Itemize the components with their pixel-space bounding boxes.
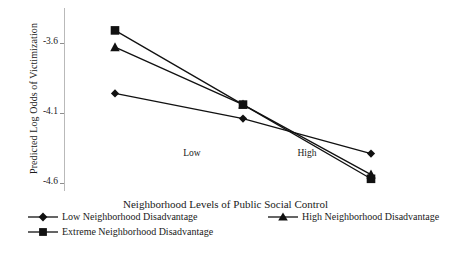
square-data-point: [367, 175, 376, 184]
diamond-data-point: [367, 150, 375, 158]
series-diamond: [111, 89, 375, 157]
y-tick-label-1: -4.1: [43, 107, 58, 117]
square-data-point: [239, 100, 248, 109]
triangle-marker-icon: [268, 211, 298, 223]
legend-label-extreme-disadvantage: Extreme Neighborhood Disadvantage: [62, 227, 213, 237]
series-layer: [64, 8, 392, 191]
x-axis-title: Neighborhood Levels of Public Social Con…: [0, 198, 451, 210]
legend-row-1: Low Neighborhood Disadvantage High Neigh…: [28, 211, 443, 226]
legend-row-2: Extreme Neighborhood Disadvantage: [28, 226, 443, 241]
x-tick-label-low: Low: [183, 148, 200, 158]
diamond-data-point: [239, 115, 247, 123]
y-tick-label-2: -4.6: [43, 177, 58, 187]
triangle-data-point: [110, 42, 120, 51]
series-line: [115, 47, 371, 174]
square-marker-icon: [28, 226, 58, 238]
legend-label-high-disadvantage: High Neighborhood Disadvantage: [302, 212, 439, 222]
y-tick-label-0: -3.6: [43, 37, 58, 47]
legend-item-low-disadvantage: Low Neighborhood Disadvantage: [28, 211, 198, 223]
plot-area: -3.6 -4.1 -4.6 Low High: [64, 8, 392, 191]
legend-item-extreme-disadvantage: Extreme Neighborhood Disadvantage: [28, 226, 213, 238]
chart-figure: Predicted Log Odds of Victimization -3.6…: [0, 0, 451, 258]
y-axis-title: Predicted Log Odds of Victimization: [28, 4, 39, 194]
diamond-data-point: [111, 89, 119, 97]
x-tick-label-high: High: [298, 148, 317, 158]
square-data-point: [111, 26, 120, 35]
diamond-marker-icon: [28, 211, 58, 223]
chart-legend: Low Neighborhood Disadvantage High Neigh…: [28, 211, 443, 241]
legend-item-high-disadvantage: High Neighborhood Disadvantage: [268, 211, 439, 223]
legend-label-low-disadvantage: Low Neighborhood Disadvantage: [62, 212, 198, 222]
series-square: [111, 26, 376, 183]
